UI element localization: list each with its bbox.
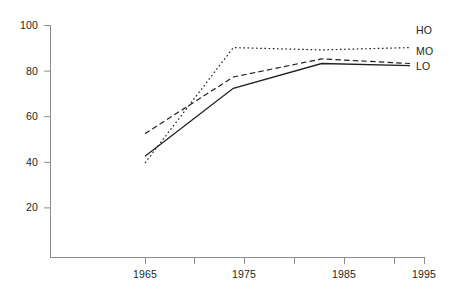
- chart-plot-area: [0, 0, 452, 295]
- line-chart: 100 80 60 40 20 1965 1975 1985 1995 HO M…: [0, 0, 452, 295]
- series-line-lo: [145, 64, 410, 157]
- series-line-mo: [145, 59, 410, 134]
- x-axis-ticks: [146, 258, 425, 265]
- y-tick-label-40: 40: [4, 156, 38, 168]
- series-label-lo: LO: [416, 60, 430, 72]
- x-tick-label-1965: 1965: [125, 268, 165, 280]
- x-tick-label-1995: 1995: [404, 268, 444, 280]
- x-tick-label-1985: 1985: [324, 268, 364, 280]
- series-label-mo: MO: [416, 45, 433, 57]
- y-axis-ticks: [44, 26, 51, 208]
- y-tick-label-60: 60: [4, 110, 38, 122]
- x-tick-label-1975: 1975: [224, 268, 264, 280]
- y-tick-label-20: 20: [4, 201, 38, 213]
- y-tick-label-100: 100: [4, 19, 38, 31]
- series-label-ho: HO: [416, 24, 432, 36]
- y-tick-label-80: 80: [4, 65, 38, 77]
